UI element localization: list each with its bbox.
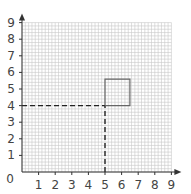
y-tick-label: 3	[7, 115, 15, 129]
x-tick-label: 1	[35, 178, 43, 192]
grid	[22, 23, 171, 172]
axes	[19, 14, 181, 175]
y-tick-label: 8	[7, 32, 15, 46]
x-tick-label: 6	[118, 178, 126, 192]
y-tick-label: 9	[7, 16, 15, 30]
origin-label: 0	[6, 172, 14, 186]
y-tick-label: 7	[7, 49, 15, 63]
x-axis-arrow-icon	[174, 169, 181, 175]
coordinate-grid-chart: 1234567891234567890	[0, 0, 191, 194]
x-tick-label: 8	[151, 178, 159, 192]
x-tick-label: 7	[134, 178, 142, 192]
x-tick-label: 2	[51, 178, 59, 192]
x-tick-label: 9	[168, 178, 176, 192]
y-tick-label: 2	[7, 132, 15, 146]
y-axis-arrow-icon	[19, 14, 25, 21]
x-tick-label: 5	[101, 178, 109, 192]
y-tick-label: 5	[7, 82, 15, 96]
x-tick-label: 3	[68, 178, 76, 192]
y-tick-label: 4	[7, 99, 15, 113]
x-tick-label: 4	[85, 178, 93, 192]
y-tick-label: 6	[7, 65, 15, 79]
y-tick-label: 1	[7, 148, 15, 162]
